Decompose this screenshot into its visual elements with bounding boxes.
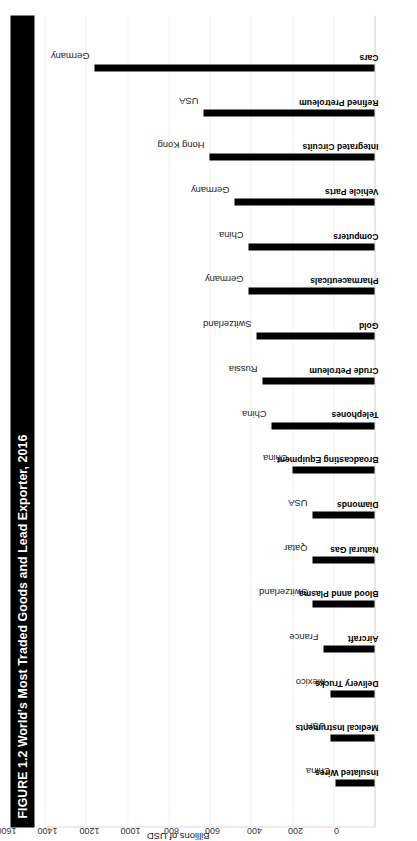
bar-slot: Switzerland <box>44 313 374 358</box>
bar-exporter-label: USA <box>288 498 307 507</box>
figure-stage: FIGURE 1.2 World's Most Traded Goods and… <box>0 0 417 841</box>
bar[interactable] <box>94 64 375 71</box>
category-label: Natural Gas <box>330 544 378 553</box>
bar[interactable] <box>248 287 374 294</box>
axis-tick: 1600 <box>0 825 16 835</box>
axis-tick: 400 <box>246 825 261 835</box>
figure-title-banner: FIGURE 1.2 World's Most Traded Goods and… <box>10 15 34 827</box>
bar-slot: Qatar <box>44 537 374 582</box>
bar[interactable] <box>271 422 374 429</box>
category-label: Diamonds <box>336 499 378 508</box>
category-label: Blood annd Plasma <box>298 589 378 598</box>
bar[interactable] <box>234 198 374 205</box>
bar-exporter-label: USA <box>179 95 198 104</box>
bar[interactable] <box>209 153 374 160</box>
bar[interactable] <box>312 556 374 563</box>
category-label: Telephones <box>331 410 378 419</box>
bar-slot: Germany <box>44 45 374 90</box>
axis-tick: 1200 <box>78 825 98 835</box>
category-label: Pharmaceuticals <box>310 276 378 285</box>
category-label: Crude Petroleum <box>309 365 378 374</box>
category-label: Medical Instruments <box>295 723 378 732</box>
bar-exporter-label: Switzerland <box>203 319 251 328</box>
page-title: FIGURE 1.2 World's Most Traded Goods and… <box>15 434 29 818</box>
chart-plot-area: ChinaUSAMexicoFranceSwitzerlandQatarUSAC… <box>44 15 374 827</box>
bar-slot: France <box>44 626 374 671</box>
bar-exporter-label: Russia <box>228 363 257 372</box>
bar-slot: China <box>44 403 374 448</box>
bar[interactable] <box>292 466 375 473</box>
category-label: Integrated Circuits <box>302 142 378 151</box>
axis-tick: 1400 <box>37 825 57 835</box>
bar-exporter-label: Germany <box>205 274 244 283</box>
bar-slot: USA <box>44 90 374 135</box>
category-label: Aircraft <box>347 633 378 642</box>
bar-slot: USA <box>44 492 374 537</box>
bar-exporter-label: Hong Kong <box>157 140 204 149</box>
bar-exporter-label: China <box>219 229 244 238</box>
bar-slot: China <box>44 224 374 269</box>
bar-exporter-label: Germany <box>50 50 89 59</box>
category-label: Cars <box>359 52 378 61</box>
axis-tick: 1000 <box>120 825 140 835</box>
bar[interactable] <box>330 734 374 741</box>
bar[interactable] <box>312 511 374 518</box>
bar[interactable] <box>262 377 374 384</box>
category-label: Vehicle Parts <box>324 186 378 195</box>
bar[interactable] <box>335 779 374 786</box>
bar-exporter-label: Germany <box>190 185 229 194</box>
category-label: Computers <box>333 231 378 240</box>
bar-exporter-label: France <box>289 632 318 641</box>
category-label: Broadcasting Equipment <box>276 455 378 464</box>
bar[interactable] <box>203 109 374 116</box>
category-label: Delivery Trucks <box>314 678 378 687</box>
axis-tick: 200 <box>287 825 302 835</box>
bar[interactable] <box>312 600 374 607</box>
category-label: Gold <box>358 321 378 330</box>
bar[interactable] <box>330 690 374 697</box>
axis-tick: 0 <box>333 825 338 835</box>
category-label: Refined Pretroleum <box>299 97 378 106</box>
bar[interactable] <box>248 243 374 250</box>
bar-exporter-label: China <box>241 408 266 417</box>
bar[interactable] <box>256 332 374 339</box>
bar-exporter-label: Qatar <box>284 542 307 551</box>
category-label: Insulated Wires <box>315 768 378 777</box>
category-label-group: Insulated WiresMedical InstrumentsDelive… <box>378 15 417 827</box>
bar[interactable] <box>323 645 374 652</box>
